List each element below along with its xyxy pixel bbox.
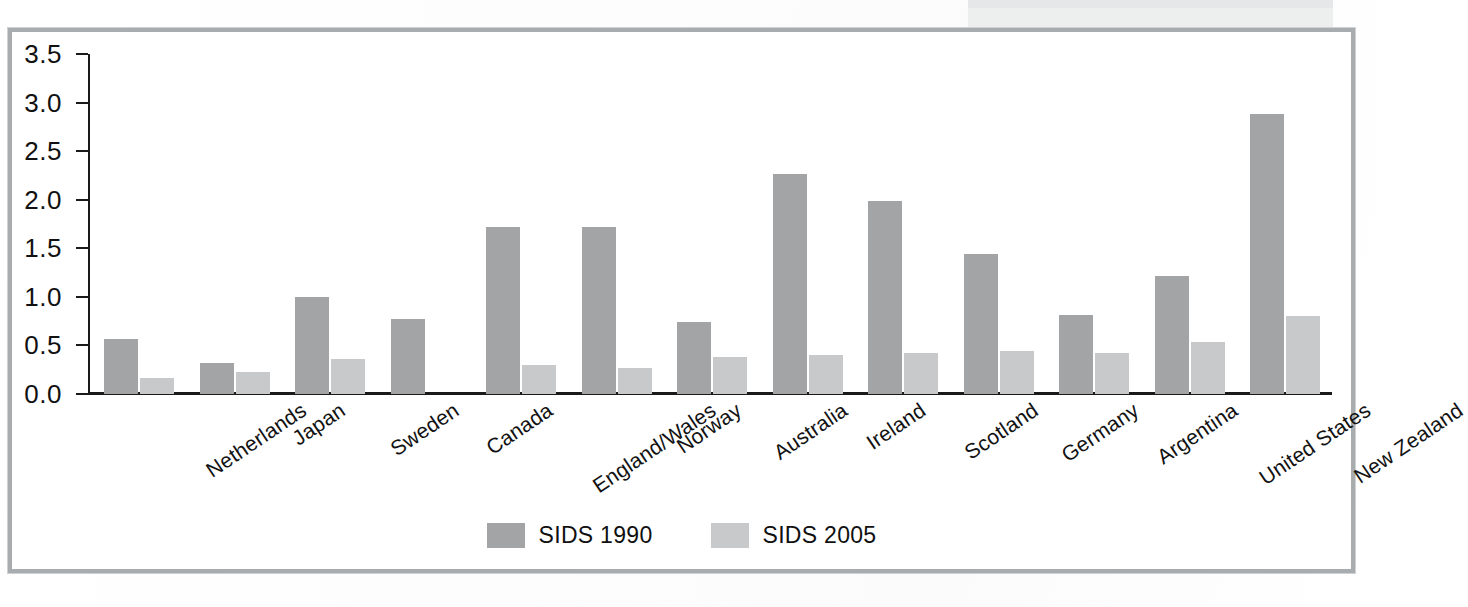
bar-1990 <box>964 254 998 394</box>
bar-group <box>1155 54 1251 394</box>
y-axis-tick-label: 3.5 <box>24 39 62 70</box>
bar-1990 <box>677 322 711 394</box>
bar-group <box>868 54 964 394</box>
bar-1990 <box>295 297 329 394</box>
bar-2005 <box>331 359 365 394</box>
y-axis-tick-label: 3.0 <box>24 87 62 118</box>
y-axis-tick <box>76 344 88 346</box>
bar-2005 <box>522 365 556 394</box>
y-axis-tick-label: 1.0 <box>24 281 62 312</box>
x-axis-label: Argentina <box>1153 398 1242 469</box>
y-axis-tick-label: 0.5 <box>24 330 62 361</box>
y-axis-tick-label: 2.5 <box>24 136 62 167</box>
y-axis-tick <box>76 247 88 249</box>
bar-2005 <box>1095 353 1129 394</box>
bar-1990 <box>104 339 138 394</box>
x-axis-label: Sweden <box>386 398 463 461</box>
bar-group <box>582 54 678 394</box>
bar-2005 <box>1191 342 1225 394</box>
y-axis-tick-label: 0.0 <box>24 379 62 410</box>
bar-2005 <box>809 355 843 394</box>
bar-1990 <box>200 363 234 394</box>
y-axis-tick <box>76 53 88 55</box>
bar-2005 <box>904 353 938 394</box>
y-axis-tick-label: 2.0 <box>24 184 62 215</box>
legend-item: SIDS 2005 <box>711 522 877 549</box>
x-axis-label: Australia <box>769 398 852 465</box>
bar-2005 <box>618 368 652 394</box>
bar-1990 <box>868 201 902 394</box>
y-axis-tick <box>76 296 88 298</box>
bar-series-container <box>90 54 1332 394</box>
bar-group <box>773 54 869 394</box>
bar-group <box>200 54 296 394</box>
plot-area: 0.00.51.01.52.02.53.03.5 NetherlandsJapa… <box>12 32 1351 569</box>
bar-1990 <box>486 227 520 394</box>
y-axis-tick <box>76 393 88 395</box>
bar-group <box>295 54 391 394</box>
y-axis-tick <box>76 199 88 201</box>
bar-group <box>486 54 582 394</box>
bar-2005 <box>140 378 174 395</box>
legend-item: SIDS 1990 <box>487 522 653 549</box>
x-axis-label: Scotland <box>961 398 1044 464</box>
bar-2005 <box>1286 316 1320 394</box>
bar-2005 <box>713 357 747 394</box>
bar-1990 <box>1155 276 1189 395</box>
chart-legend: SIDS 1990SIDS 2005 <box>12 522 1351 549</box>
bar-2005 <box>1000 351 1034 394</box>
bar-1990 <box>773 174 807 395</box>
legend-label: SIDS 2005 <box>763 522 877 549</box>
x-axis-label: Canada <box>481 398 556 460</box>
x-axis-labels: NetherlandsJapanSwedenCanadaEngland/Wale… <box>90 398 1332 518</box>
legend-swatch <box>487 523 525 548</box>
y-axis-tick <box>76 150 88 152</box>
x-axis-label: Germany <box>1057 398 1143 467</box>
bar-group <box>1059 54 1155 394</box>
bar-group <box>1250 54 1346 394</box>
legend-label: SIDS 1990 <box>539 522 653 549</box>
bar-group <box>677 54 773 394</box>
legend-swatch <box>711 523 749 548</box>
bar-group <box>391 54 487 394</box>
x-axis-label: Ireland <box>862 398 930 455</box>
bar-group <box>964 54 1060 394</box>
bar-1990 <box>1059 315 1093 394</box>
bar-group <box>104 54 200 394</box>
y-axis-tick <box>76 102 88 104</box>
y-axis-tick-label: 1.5 <box>24 233 62 264</box>
bar-1990 <box>391 319 425 394</box>
bar-1990 <box>1250 114 1284 394</box>
caption-artifact-line <box>968 0 1333 8</box>
bar-1990 <box>582 227 616 394</box>
bar-2005 <box>236 372 270 394</box>
chart-frame: 0.00.51.01.52.02.53.03.5 NetherlandsJapa… <box>8 28 1355 573</box>
